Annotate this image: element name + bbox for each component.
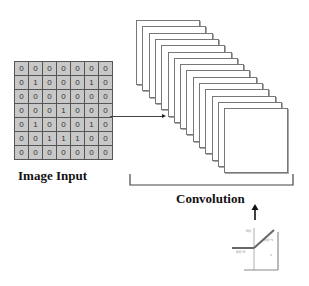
matrix-cell: 0 <box>57 76 70 89</box>
matrix-cell: 0 <box>85 132 98 145</box>
matrix-cell: 0 <box>99 76 112 89</box>
matrix-cell: 0 <box>71 118 84 131</box>
matrix-cell: 0 <box>71 104 84 117</box>
input-to-conv-arrow <box>110 116 164 117</box>
matrix-cell: 0 <box>85 62 98 75</box>
convolution-bracket <box>128 172 296 188</box>
matrix-cell: 0 <box>43 104 56 117</box>
matrix-cell: 0 <box>85 90 98 103</box>
svg-text:f(x)=x: f(x)=x <box>264 238 273 242</box>
arrow-head-icon <box>162 114 166 118</box>
matrix-cell: 1 <box>71 132 84 145</box>
matrix-cell: 1 <box>85 118 98 131</box>
relu-graph: f(x) f(x)=x f(x)=0 x <box>230 226 282 272</box>
matrix-cell: 0 <box>99 146 112 159</box>
matrix-cell: 0 <box>15 90 28 103</box>
matrix-cell: 0 <box>71 146 84 159</box>
matrix-cell: 0 <box>15 62 28 75</box>
matrix-cell: 1 <box>29 118 42 131</box>
convolution-label: Convolution <box>176 191 245 207</box>
matrix-cell: 0 <box>85 146 98 159</box>
matrix-cell: 0 <box>29 132 42 145</box>
matrix-cell: 0 <box>99 132 112 145</box>
matrix-cell: 0 <box>29 62 42 75</box>
matrix-cell: 1 <box>85 76 98 89</box>
svg-text:f(x)=0: f(x)=0 <box>236 250 245 254</box>
matrix-cell: 0 <box>29 90 42 103</box>
matrix-cell: 0 <box>71 90 84 103</box>
matrix-cell: 0 <box>43 146 56 159</box>
matrix-cell: 0 <box>99 62 112 75</box>
matrix-cell: 1 <box>57 132 70 145</box>
matrix-cell: 0 <box>99 90 112 103</box>
up-arrow-icon <box>250 203 260 221</box>
matrix-cell: 0 <box>43 76 56 89</box>
matrix-cell: 0 <box>15 146 28 159</box>
matrix-cell: 0 <box>15 76 28 89</box>
matrix-cell: 0 <box>43 90 56 103</box>
feature-map <box>224 108 288 173</box>
matrix-cell: 0 <box>43 62 56 75</box>
matrix-cell: 0 <box>57 62 70 75</box>
matrix-cell: 0 <box>15 104 28 117</box>
matrix-cell: 0 <box>85 104 98 117</box>
matrix-cell: 0 <box>57 118 70 131</box>
image-input-label: Image Input <box>18 168 87 184</box>
matrix-cell: 0 <box>29 146 42 159</box>
matrix-cell: 0 <box>71 76 84 89</box>
matrix-cell: 0 <box>57 146 70 159</box>
matrix-cell: 0 <box>43 118 56 131</box>
matrix-cell: 1 <box>43 132 56 145</box>
matrix-cell: 0 <box>29 104 42 117</box>
matrix-cell: 0 <box>99 118 112 131</box>
input-matrix: 0000000010001000000000001000010001000111… <box>14 61 113 160</box>
svg-text:f(x): f(x) <box>246 229 252 233</box>
matrix-cell: 1 <box>57 104 70 117</box>
matrix-cell: 0 <box>71 62 84 75</box>
svg-text:x: x <box>270 253 272 257</box>
matrix-cell: 0 <box>57 90 70 103</box>
matrix-cell: 0 <box>15 118 28 131</box>
matrix-cell: 1 <box>29 76 42 89</box>
matrix-cell: 0 <box>15 132 28 145</box>
